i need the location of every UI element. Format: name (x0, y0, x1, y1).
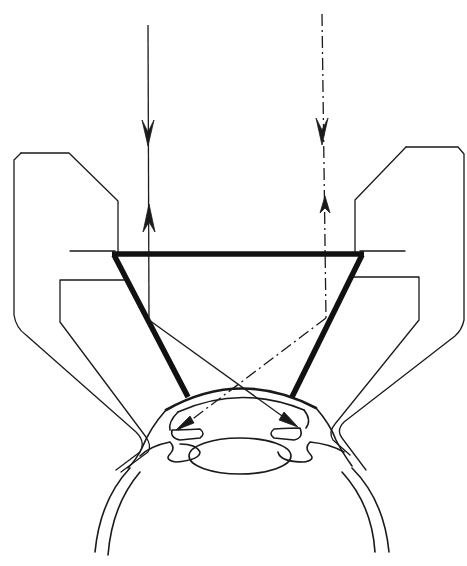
crystalline-lens (189, 438, 291, 474)
sclera-right-outer (352, 468, 389, 552)
arrow-up-icon (320, 196, 330, 213)
lens-right-mirror (292, 255, 362, 397)
arrow-angle-icon (176, 416, 194, 430)
sclera-left-outer (95, 468, 130, 552)
cornea-inner (178, 397, 304, 412)
arrow-down-icon (316, 118, 328, 145)
iris-right (271, 428, 301, 440)
goniolens (112, 254, 364, 397)
left-ray (142, 25, 298, 427)
sclera-right-inner (342, 472, 375, 552)
eye (95, 388, 389, 555)
iris-left (172, 429, 203, 440)
left-holder (14, 153, 150, 472)
lens-left-mirror (114, 255, 188, 397)
right-holder (331, 147, 464, 470)
gonioscopy-diagram (0, 0, 467, 566)
arrow-angle-icon (279, 412, 298, 427)
diagram-canvas: Gonioscopy contact lens (goniolens) on e… (0, 0, 467, 566)
sclera-left-inner (108, 472, 140, 555)
